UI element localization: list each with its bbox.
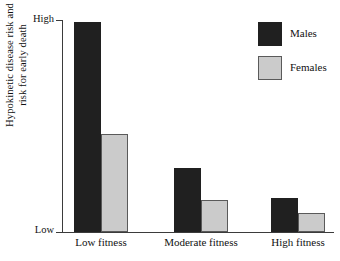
y-axis-tick-label-high: High (8, 13, 54, 24)
x-axis-label-high-fitness: High fitness (238, 236, 340, 248)
plot-area (62, 20, 334, 232)
bar-low-fitness-males (74, 22, 101, 232)
legend-label-males: Males (290, 27, 317, 39)
legend-label-females: Females (290, 61, 327, 73)
bar-high-fitness-females (298, 213, 325, 232)
bar-chart: Hypokinetic disease risk and risk for ea… (0, 0, 340, 261)
bar-high-fitness-males (271, 198, 298, 232)
bar-moderate-fitness-males (174, 168, 201, 232)
y-axis-title-line-2: risk for early death (16, 0, 29, 165)
bar-low-fitness-females (101, 134, 128, 232)
legend-swatch-males (258, 22, 282, 46)
legend-swatch-females (258, 56, 282, 80)
y-axis-tick-label-low: Low (8, 224, 54, 235)
y-axis-title: Hypokinetic disease risk and risk for ea… (3, 0, 29, 165)
y-axis-title-line-1: Hypokinetic disease risk and (3, 0, 16, 165)
bar-moderate-fitness-females (201, 200, 228, 232)
